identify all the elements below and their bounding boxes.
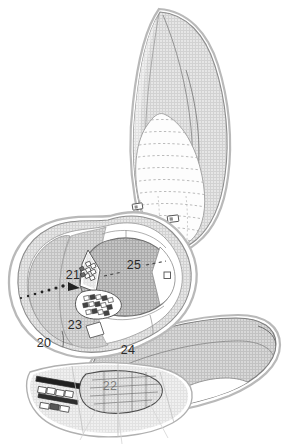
zone-label-22: 22 — [103, 379, 118, 393]
zone-label-25: 25 — [127, 258, 142, 272]
zone-label-21: 21 — [66, 268, 81, 282]
site-plan-map: 20 21 22 23 24 25 — [0, 0, 290, 447]
zone-label-23: 23 — [68, 318, 83, 332]
zone-label-24: 24 — [121, 343, 136, 357]
zone-label-20: 20 — [37, 336, 52, 350]
site-plan-svg: 20 21 22 23 24 25 — [0, 0, 290, 447]
terrace-structure-south — [167, 215, 179, 223]
plaza-marker — [164, 272, 171, 279]
terrace-structure-north — [132, 203, 143, 210]
